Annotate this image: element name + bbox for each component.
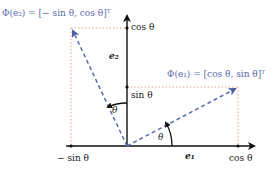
- theta-arc-e2: [108, 103, 127, 107]
- tick-dots: [69, 26, 239, 147]
- x-tick-cos-label: cos θ: [229, 154, 252, 163]
- e1-axis-label: e₁: [185, 152, 195, 161]
- x-tick-neg-sin-label: − sin θ: [57, 154, 89, 163]
- axes: [66, 16, 254, 146]
- projection-lines: [71, 28, 238, 146]
- theta-arc-e1: [166, 123, 172, 146]
- y-tick-sin-label: sin θ: [131, 91, 153, 100]
- phi-e2-label: Φ(e₂) = [− sin θ, cos θ]ᵀ: [2, 9, 110, 18]
- theta-e1-label: θ: [158, 133, 163, 142]
- rotated-vectors: [73, 31, 235, 146]
- phi-e1-label: Φ(e₁) = [cos θ, sin θ]ᵀ: [167, 70, 265, 79]
- e2-axis-label: e₂: [109, 52, 119, 61]
- y-tick-cos-label: cos θ: [131, 23, 154, 32]
- theta-e2-label: θ: [112, 106, 117, 115]
- phi-e2-vector: [73, 31, 127, 146]
